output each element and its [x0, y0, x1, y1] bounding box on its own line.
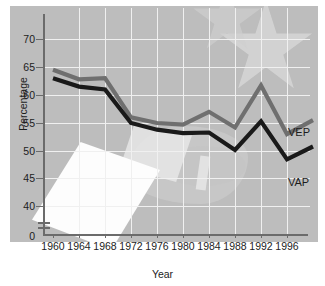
gridline-40	[45, 206, 310, 207]
y-axis	[43, 14, 45, 236]
y-tick-40	[36, 206, 44, 207]
x-tick-1992	[261, 234, 262, 238]
series-label-vep: VEP	[288, 126, 310, 138]
x-tick-1964	[79, 234, 80, 238]
y-axis-title: Percentage	[17, 64, 29, 144]
gridline-45	[45, 178, 310, 179]
y-tick-60	[36, 95, 44, 96]
x-tick-1984	[209, 234, 210, 238]
y-axis-break-mark-upper	[38, 222, 50, 224]
y-tick-label-40: 40	[0, 201, 35, 211]
gridline-60	[45, 95, 310, 96]
y-tick-label-70: 70	[0, 34, 35, 44]
x-axis	[43, 234, 308, 236]
y-tick-label-0: 0	[0, 231, 35, 241]
x-tick-1988	[235, 234, 236, 238]
y-tick-50	[36, 151, 44, 152]
y-tick-70	[36, 39, 44, 40]
gridline-1976	[157, 8, 158, 234]
gridline-1972	[131, 8, 132, 234]
x-tick-1976	[157, 234, 158, 238]
gridline-1980	[183, 8, 184, 234]
chart-container: 70 65 60 55 50 45 40 0 1960 1964 1968 19…	[0, 0, 325, 286]
gridline-65	[45, 67, 310, 68]
x-tick-1972	[131, 234, 132, 238]
gridline-50	[45, 151, 310, 152]
y-tick-label-45: 45	[0, 173, 35, 183]
gridline-70	[45, 39, 310, 40]
y-tick-55	[36, 123, 44, 124]
x-tick-1980	[183, 234, 184, 238]
gridline-1964	[79, 8, 80, 234]
series-label-vap: VAP	[288, 176, 309, 188]
gridline-1992	[261, 8, 262, 234]
y-tick-45	[36, 178, 44, 179]
y-axis-break-mark-lower	[38, 227, 50, 229]
y-tick-label-50: 50	[0, 146, 35, 156]
x-tick-1996	[287, 234, 288, 238]
x-tick-1960	[53, 234, 54, 238]
x-axis-title: Year	[0, 268, 325, 280]
gridline-1968	[105, 8, 106, 234]
gridline-1988	[235, 8, 236, 234]
gridline-55	[45, 123, 310, 124]
x-tick-1968	[105, 234, 106, 238]
gridline-1996	[287, 8, 288, 234]
y-tick-65	[36, 67, 44, 68]
x-tick-label-1996: 1996	[270, 240, 304, 252]
gridline-1984	[209, 8, 210, 234]
